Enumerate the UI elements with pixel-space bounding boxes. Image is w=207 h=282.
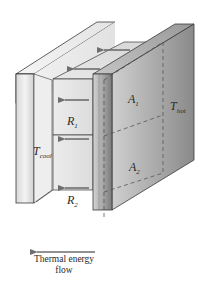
label-r1-sub: 1 <box>74 122 78 130</box>
label-r2-sub: 2 <box>74 201 78 209</box>
label-a1: A1 <box>128 92 139 108</box>
label-r2: R2 <box>67 193 78 209</box>
label-t-cool: Tcool <box>33 144 52 160</box>
label-a2-sub: 2 <box>136 168 140 176</box>
flow-caption: Thermal energy flow <box>24 254 104 276</box>
label-t-hot-sub: hot <box>177 107 186 115</box>
label-t-cool-main: T <box>33 144 40 158</box>
label-t-cool-sub: cool <box>40 152 52 160</box>
thermal-wall-diagram <box>0 0 207 282</box>
label-a2: A2 <box>129 160 140 176</box>
label-a1-sub: 1 <box>135 100 139 108</box>
region-r2 <box>53 135 93 190</box>
caption-line-1: Thermal energy <box>24 254 104 265</box>
label-t-hot-main: T <box>170 99 177 113</box>
caption-line-2: flow <box>24 265 104 276</box>
label-r1: R1 <box>67 114 78 130</box>
label-t-hot: Thot <box>170 99 186 115</box>
